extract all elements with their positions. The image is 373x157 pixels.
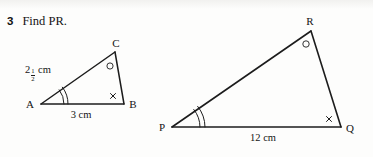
large-triangle-figure: P Q R 12 cm xyxy=(159,15,354,143)
angle-mark-r-circle xyxy=(303,41,309,47)
side-ab-label: 3 cm xyxy=(71,109,92,120)
segment-pr xyxy=(172,31,311,127)
segment-ac xyxy=(41,52,115,104)
segment-cb xyxy=(115,52,124,104)
angle-mark-p-double-tick xyxy=(194,106,205,127)
side-ac-numerator: 1 xyxy=(31,68,35,75)
vertex-label-q: Q xyxy=(346,122,354,134)
side-ac-fraction: 12 xyxy=(31,68,35,82)
vertex-label-p: P xyxy=(159,121,165,133)
vertex-label-b: B xyxy=(129,98,136,110)
vertex-label-c: C xyxy=(112,37,119,49)
angle-mark-c-circle xyxy=(107,63,113,69)
segment-rq xyxy=(311,31,341,127)
geometry-figures: A B C 3 cm xyxy=(0,0,373,157)
vertex-label-a: A xyxy=(26,98,34,110)
side-ac-unit: cm xyxy=(38,64,51,75)
vertex-label-r: R xyxy=(306,15,314,27)
exercise-page: 3 Find PR. A B xyxy=(0,0,373,157)
side-ac-label: 212cm xyxy=(25,64,51,82)
side-ac-denominator: 2 xyxy=(31,75,35,83)
side-ac-whole: 2 xyxy=(25,64,30,75)
angle-mark-q-cross xyxy=(327,117,332,122)
side-pq-label: 12 cm xyxy=(250,132,276,143)
angle-mark-b-cross xyxy=(111,94,116,99)
